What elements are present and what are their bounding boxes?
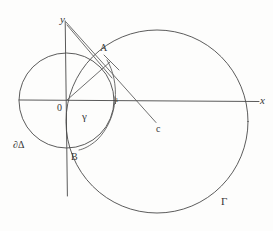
- y-axis-label: y: [60, 14, 65, 25]
- point-c-label: c: [156, 124, 160, 134]
- line-to-point-c: [66, 22, 156, 123]
- x-axis-unit-label: 1: [115, 97, 119, 104]
- small-circle-label: ∂Δ: [13, 140, 24, 150]
- geometry-diagram: [0, 0, 273, 231]
- figure-canvas: y x 0 1 A B c γ ∂Δ Γ: [0, 0, 273, 231]
- large-circle-label: Γ: [221, 196, 227, 207]
- point-b-label: B: [71, 152, 78, 162]
- origin-label: 0: [57, 103, 62, 113]
- large-circle-gamma: [66, 30, 248, 213]
- x-axis-label: x: [260, 95, 265, 106]
- segment-a-extension: [104, 55, 119, 70]
- x-axis-line: [19, 100, 259, 102]
- segment-origin-to-a: [67, 62, 110, 100]
- point-a-label: A: [100, 43, 107, 53]
- arc-gamma-label: γ: [82, 111, 87, 122]
